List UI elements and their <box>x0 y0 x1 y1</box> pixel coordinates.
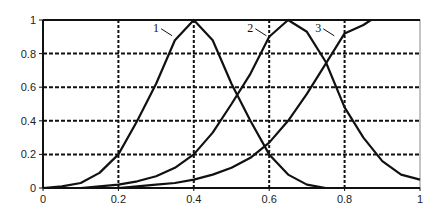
curve-1 <box>43 20 326 188</box>
y-tick-label: 0 <box>30 182 36 194</box>
y-tick-label: 1 <box>30 14 36 26</box>
y-tick-label: 0.8 <box>21 48 36 60</box>
leader-line <box>323 29 334 36</box>
x-tick-label: 0.4 <box>186 193 201 205</box>
x-tick-label: 1 <box>417 193 423 205</box>
leader-line <box>161 29 172 36</box>
x-tick-label: 0 <box>40 193 46 205</box>
x-tick-label: 0.2 <box>111 193 126 205</box>
curve-label-3: 3 <box>315 21 321 35</box>
leader-line <box>255 29 266 36</box>
line-chart: 00.20.40.60.8100.20.40.60.81 123 <box>0 0 443 218</box>
curve-label-2: 2 <box>247 21 253 35</box>
x-tick-label: 0.8 <box>337 193 352 205</box>
curves <box>43 20 420 188</box>
y-tick-label: 0.2 <box>21 148 36 160</box>
tick-labels: 00.20.40.60.8100.20.40.60.81 <box>21 14 423 205</box>
y-tick-label: 0.4 <box>21 115 36 127</box>
curve-label-1: 1 <box>153 21 159 35</box>
x-tick-label: 0.6 <box>262 193 277 205</box>
curve-3 <box>100 20 421 188</box>
y-tick-label: 0.6 <box>21 81 36 93</box>
